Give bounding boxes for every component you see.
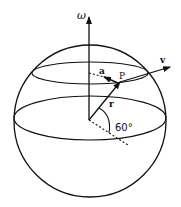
point-label: P [119,71,125,81]
acceleration-label: a [99,66,105,76]
velocity-label: v [159,55,166,65]
omega-label: ω [77,9,86,22]
sphere-diagram: ω v a P r 60° [0,0,181,207]
acceleration-vector [104,77,118,83]
position-vector [89,82,120,120]
angle-label: 60° [115,122,133,133]
radius-label: r [109,99,114,109]
